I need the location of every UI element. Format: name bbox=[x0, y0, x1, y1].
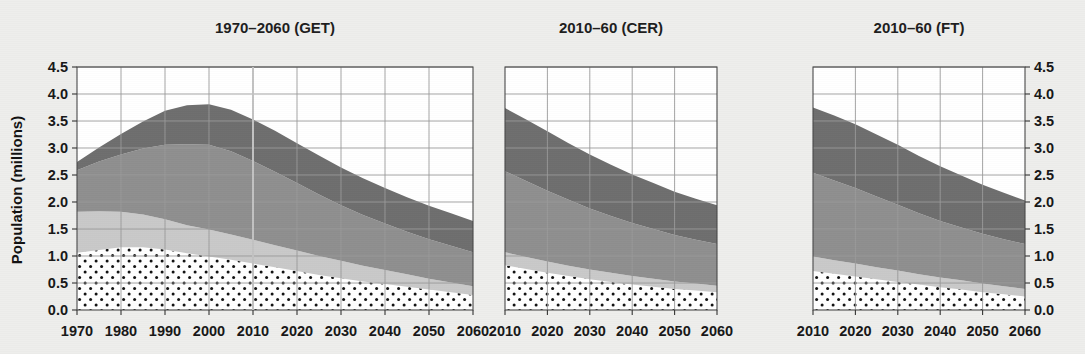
x-tick-label: 2000 bbox=[193, 323, 225, 339]
y-tick-label: 2.5 bbox=[1034, 167, 1054, 183]
x-tick-label: 2030 bbox=[882, 323, 914, 339]
x-tick-label: 2030 bbox=[325, 323, 357, 339]
y-tick-label: 3.0 bbox=[48, 140, 68, 156]
y-tick-label: 2.0 bbox=[48, 194, 68, 210]
y-tick-label: 3.5 bbox=[48, 113, 68, 129]
y-tick-label: 0.0 bbox=[48, 302, 68, 318]
panel-3: 2010–60 (FT)2010202020302040205020600.00… bbox=[797, 19, 1054, 339]
panels-group: 1970–2060 (GET)1970198019902000201020202… bbox=[48, 19, 1054, 339]
y-tick-label: 4.0 bbox=[1034, 86, 1054, 102]
x-tick-label: 2010 bbox=[237, 323, 269, 339]
multi-panel-area-chart: 1970–2060 (GET)1970198019902000201020202… bbox=[0, 0, 1085, 354]
y-tick-label: 3.5 bbox=[1034, 113, 1054, 129]
y-tick-label: 0.5 bbox=[1034, 275, 1054, 291]
x-tick-label: 1980 bbox=[105, 323, 137, 339]
y-tick-label: 4.5 bbox=[48, 59, 68, 75]
y-tick-label: 4.0 bbox=[48, 86, 68, 102]
y-tick-label: 4.5 bbox=[1034, 59, 1054, 75]
y-tick-label: 2.0 bbox=[1034, 194, 1054, 210]
x-tick-label: 2060 bbox=[457, 323, 489, 339]
x-tick-label: 2040 bbox=[616, 323, 648, 339]
x-tick-label: 2050 bbox=[658, 323, 690, 339]
panel-title-1: 1970–2060 (GET) bbox=[215, 19, 335, 36]
x-tick-label: 2050 bbox=[966, 323, 998, 339]
x-tick-label: 2050 bbox=[413, 323, 445, 339]
x-tick-label: 2020 bbox=[531, 323, 563, 339]
x-tick-label: 1990 bbox=[149, 323, 181, 339]
x-tick-label: 2010 bbox=[797, 323, 829, 339]
x-tick-label: 2030 bbox=[574, 323, 606, 339]
x-tick-label: 2040 bbox=[924, 323, 956, 339]
y-tick-label: 1.0 bbox=[1034, 248, 1054, 264]
y-tick-label: 3.0 bbox=[1034, 140, 1054, 156]
y-tick-label: 0.5 bbox=[48, 275, 68, 291]
y-tick-label: 0.0 bbox=[1034, 302, 1054, 318]
panel-2: 2010–60 (CER)201020202030204020502060 bbox=[489, 19, 733, 339]
panel-title-2: 2010–60 (CER) bbox=[559, 19, 663, 36]
y-tick-label: 2.5 bbox=[48, 167, 68, 183]
x-tick-label: 2010 bbox=[489, 323, 521, 339]
x-tick-label: 2020 bbox=[281, 323, 313, 339]
panel-title-3: 2010–60 (FT) bbox=[874, 19, 965, 36]
x-tick-label: 2040 bbox=[369, 323, 401, 339]
y-tick-label: 1.0 bbox=[48, 248, 68, 264]
x-tick-label: 2020 bbox=[839, 323, 871, 339]
x-tick-label: 1970 bbox=[61, 323, 93, 339]
y-axis-label: Population (millions) bbox=[8, 116, 25, 264]
y-tick-label: 1.5 bbox=[48, 221, 68, 237]
panel-1: 1970–2060 (GET)1970198019902000201020202… bbox=[48, 19, 489, 339]
x-tick-label: 2060 bbox=[1009, 323, 1041, 339]
x-tick-label: 2060 bbox=[701, 323, 733, 339]
y-tick-label: 1.5 bbox=[1034, 221, 1054, 237]
